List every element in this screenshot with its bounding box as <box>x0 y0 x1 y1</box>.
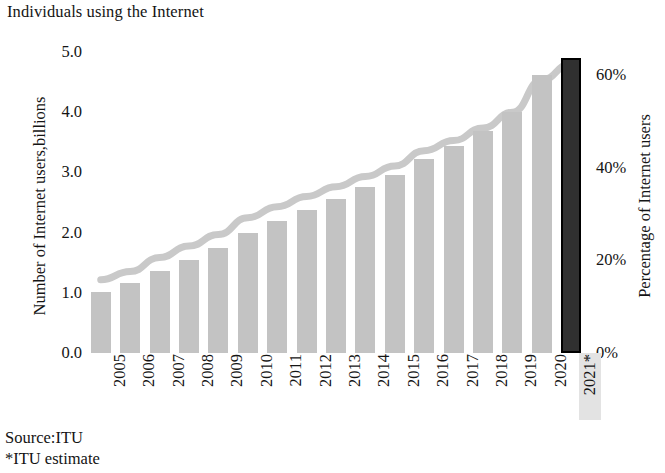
x-axis-tick-label: 2016 <box>432 354 454 420</box>
bar <box>355 187 375 353</box>
bar <box>238 233 258 353</box>
x-axis-tick-label: 2008 <box>197 354 219 420</box>
y-axis-right-tick-label: 0% <box>596 345 642 361</box>
x-axis-tick-label: 2009 <box>226 354 248 420</box>
y-axis-left-tick-label: 2.0 <box>38 225 82 241</box>
bar <box>532 75 552 353</box>
bar <box>208 248 228 353</box>
bar-estimate <box>561 58 581 353</box>
x-axis-tick-label: 2005 <box>109 354 131 420</box>
x-axis-tick-label: 2007 <box>168 354 190 420</box>
x-axis-tick-label: 2011 <box>285 354 307 420</box>
chart-title: Individuals using the Internet <box>7 2 204 22</box>
bar <box>473 131 493 353</box>
y-axis-left-tick-label: 5.0 <box>38 44 82 60</box>
y-axis-left-ticks: 5.04.03.02.01.00.0 <box>38 0 82 473</box>
x-axis-tick-label: 2020 <box>550 354 572 420</box>
x-axis-tick-label: 2017 <box>462 354 484 420</box>
y-axis-right-tick-label: 40% <box>596 160 642 176</box>
y-axis-right-tick-label: 60% <box>596 67 642 83</box>
bar <box>414 159 434 353</box>
plot-area <box>86 52 586 353</box>
x-axis-tick-label: 2019 <box>520 354 542 420</box>
x-axis-tick-label: 2021* <box>579 353 601 420</box>
y-axis-right-tick-label: 20% <box>596 252 642 268</box>
bar <box>120 283 140 353</box>
y-axis-left-tick-label: 4.0 <box>38 104 82 120</box>
chart-figure: Individuals using the Internet Number of… <box>0 0 665 473</box>
x-axis-tick-label: 2010 <box>256 354 278 420</box>
bar <box>444 146 464 353</box>
x-axis-ticks: 2005200620072008200920102011201220132014… <box>86 356 586 422</box>
x-axis-tick-label: 2013 <box>344 354 366 420</box>
bar <box>502 112 522 353</box>
y-axis-left-tick-label: 0.0 <box>38 345 82 361</box>
x-axis-tick-label: 2012 <box>315 354 337 420</box>
source-label: Source:ITU <box>5 428 83 447</box>
x-axis-tick-label: 2018 <box>491 354 513 420</box>
bar <box>179 260 199 353</box>
bar <box>91 292 111 353</box>
y-axis-left-tick-label: 1.0 <box>38 285 82 301</box>
x-axis-tick-label: 2015 <box>403 354 425 420</box>
bar <box>267 221 287 353</box>
bar <box>150 271 170 353</box>
x-axis-tick-label: 2014 <box>373 354 395 420</box>
bar <box>385 175 405 353</box>
x-axis-tick-label: 2006 <box>138 354 160 420</box>
y-axis-right-ticks: 60%40%20%0% <box>596 0 642 473</box>
y-axis-left-tick-label: 3.0 <box>38 164 82 180</box>
bar <box>297 210 317 353</box>
estimate-note-label: *ITU estimate <box>5 449 100 468</box>
bar <box>326 199 346 353</box>
